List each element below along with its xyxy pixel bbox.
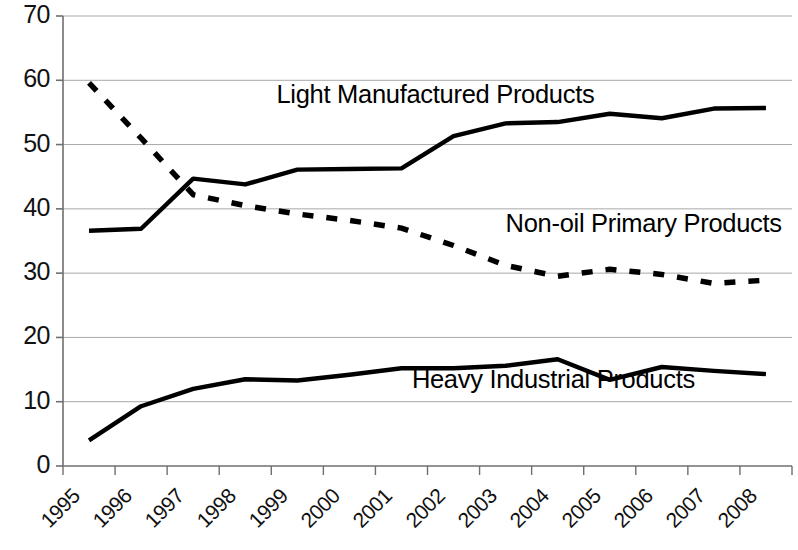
y-axis-tick-label: 60: [0, 64, 50, 93]
series-annotation-1: Non-oil Primary Products: [506, 209, 782, 238]
x-axis-ticks: [63, 466, 792, 475]
y-axis-tick-label: 10: [0, 386, 50, 415]
y-axis-tick-label: 0: [0, 450, 50, 479]
chart-container: 706050403020100 199519961997199819992000…: [0, 0, 798, 550]
series-annotation-0: Light Manufactured Products: [276, 80, 594, 109]
y-axis-tick-label: 50: [0, 129, 50, 158]
series-annotation-2: Heavy Industrial Products: [412, 365, 695, 394]
y-axis-tick-label: 40: [0, 193, 50, 222]
y-axis-tick-label: 30: [0, 257, 50, 286]
y-axis-tick-label: 20: [0, 321, 50, 350]
y-axis-tick-label: 70: [0, 0, 50, 29]
